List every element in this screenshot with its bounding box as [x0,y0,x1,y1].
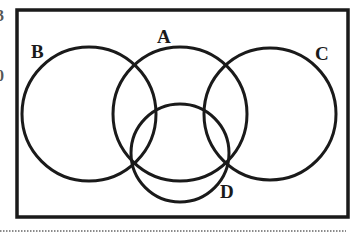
set-a-label: A [157,26,171,47]
set-b-circle [22,47,156,181]
set-c-circle [204,48,336,180]
venn-diagram: A B C D [0,0,360,234]
set-d-circle [131,104,229,202]
set-b-label: B [31,41,44,62]
set-c-label: C [315,43,329,64]
universe-frame [17,10,348,217]
set-d-label: D [220,181,234,202]
